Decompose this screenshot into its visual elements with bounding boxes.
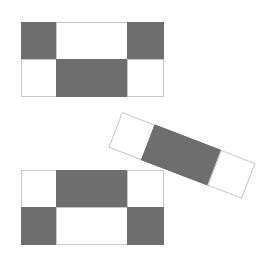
tile-cell-empty (56, 207, 128, 245)
diagram-canvas (0, 0, 275, 254)
tile-cell-filled (56, 59, 128, 97)
tile-cell-empty (21, 170, 58, 208)
top-rectangle-piece-grid (21, 22, 163, 96)
tile-cell-filled (21, 22, 58, 60)
top-rectangle-piece[interactable] (21, 22, 163, 96)
bottom-rectangle-piece-grid (21, 170, 163, 244)
tile-cell-filled (21, 207, 58, 245)
tile-cell-filled (56, 170, 128, 208)
tile-cell-empty (127, 59, 164, 97)
tile-cell-filled (127, 22, 164, 60)
tile-cell-empty (21, 59, 58, 97)
tile-cell-empty (56, 22, 128, 60)
bottom-rectangle-piece[interactable] (21, 170, 163, 244)
tile-cell-empty (127, 170, 164, 208)
tile-cell-filled (127, 207, 164, 245)
